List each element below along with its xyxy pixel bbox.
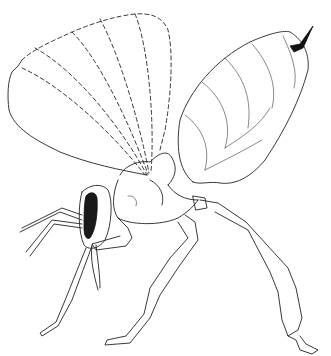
hind-leg	[200, 200, 318, 354]
thorax	[114, 153, 199, 224]
forewing	[8, 14, 171, 175]
mid-leg	[105, 215, 198, 345]
insect-drawing	[0, 0, 331, 356]
mouthparts	[91, 245, 100, 290]
ovipositor	[290, 26, 313, 52]
petiole	[193, 196, 207, 210]
illustration-canvas	[0, 0, 331, 356]
abdomen	[178, 31, 308, 183]
compound-eye	[84, 193, 97, 239]
antennae	[20, 208, 82, 256]
head	[79, 185, 111, 248]
